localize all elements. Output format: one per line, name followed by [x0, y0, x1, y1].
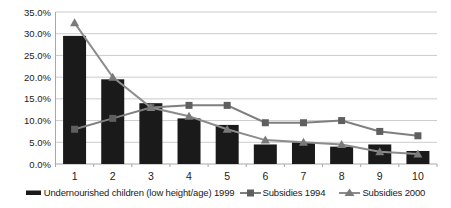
- legend-item-subsidies-2000: Subsidies 2000: [339, 187, 425, 198]
- legend: Undernourished children (low height/age)…: [0, 187, 451, 198]
- y-axis-label: 15.0%: [24, 93, 51, 104]
- x-axis-label: 1: [72, 170, 78, 182]
- y-axis-label: 20.0%: [24, 72, 51, 83]
- x-axis-label: 2: [110, 170, 116, 182]
- marker-square-10: [414, 132, 421, 139]
- bar-swatch-icon: [26, 188, 42, 197]
- legend-label-subsidies-1994: Subsidies 1994: [263, 187, 326, 198]
- chart-svg: 0.0%5.0%10.0%15.0%20.0%25.0%30.0%35.0%12…: [0, 0, 451, 186]
- x-axis-label: 6: [262, 170, 268, 182]
- marker-square-5: [224, 102, 231, 109]
- x-axis-label: 7: [301, 170, 307, 182]
- y-axis-label: 0.0%: [29, 159, 51, 170]
- x-axis-label: 8: [339, 170, 345, 182]
- y-axis-label: 35.0%: [24, 7, 51, 18]
- chart-container: 0.0%5.0%10.0%15.0%20.0%25.0%30.0%35.0%12…: [0, 0, 451, 208]
- x-axis-label: 4: [186, 170, 192, 182]
- bar-1: [63, 36, 86, 164]
- bar-6: [254, 144, 277, 164]
- triangle-line-icon: [339, 188, 360, 198]
- marker-square-2: [109, 115, 116, 122]
- legend-label-subsidies-2000: Subsidies 2000: [362, 187, 425, 198]
- x-axis-label: 10: [412, 170, 424, 182]
- line-subsidies-2000: [75, 23, 418, 154]
- marker-square-8: [338, 117, 345, 124]
- y-axis-label: 30.0%: [24, 28, 51, 39]
- legend-label-undernourished: Undernourished children (low height/age)…: [44, 187, 235, 198]
- bar-4: [178, 118, 201, 164]
- marker-triangle-1: [70, 18, 79, 26]
- x-axis-label: 9: [377, 170, 383, 182]
- marker-square-1: [71, 126, 78, 133]
- y-axis-label: 10.0%: [24, 115, 51, 126]
- marker-square-7: [300, 119, 307, 126]
- marker-square-4: [186, 102, 193, 109]
- square-line-icon: [240, 188, 261, 198]
- y-axis-label: 25.0%: [24, 50, 51, 61]
- x-axis-label: 3: [148, 170, 154, 182]
- x-axis-label: 5: [224, 170, 230, 182]
- marker-square-9: [376, 128, 383, 135]
- legend-item-undernourished: Undernourished children (low height/age)…: [26, 187, 235, 198]
- legend-item-subsidies-1994: Subsidies 1994: [240, 187, 326, 198]
- bar-3: [139, 103, 162, 164]
- marker-square-6: [262, 119, 269, 126]
- y-axis-label: 5.0%: [29, 137, 51, 148]
- bar-8: [330, 147, 353, 164]
